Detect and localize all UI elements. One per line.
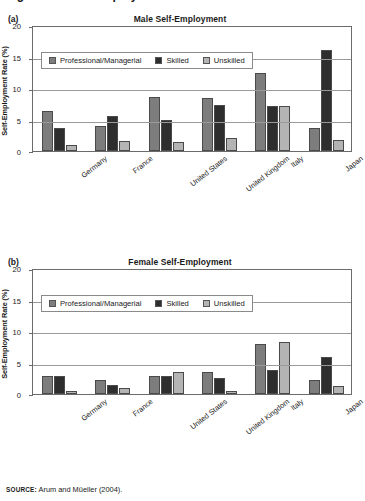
- y-axis-tick-mark: [29, 333, 33, 334]
- bar-group: [33, 270, 86, 394]
- legend-swatch-icon: [203, 57, 210, 64]
- gridline: [33, 333, 351, 334]
- bar: [279, 106, 290, 151]
- legend-swatch-icon: [49, 57, 56, 64]
- bar-group: [140, 27, 193, 151]
- x-axis-label: United States: [189, 154, 230, 188]
- bar: [107, 385, 118, 394]
- plot-area-female: 05101520Professional/ManagerialSkilledUn…: [32, 269, 352, 395]
- bar: [173, 372, 184, 394]
- bar: [333, 140, 344, 151]
- bar: [54, 128, 65, 151]
- x-axis-labels-female: GermanyFranceUnited StatesUnited Kingdom…: [32, 397, 352, 441]
- y-axis-tick-mark: [29, 59, 33, 60]
- bar: [214, 105, 225, 151]
- source-note: SOURCE: Arum and Müeller (2004).: [6, 485, 122, 494]
- bar: [95, 126, 106, 151]
- bar-group: [86, 270, 139, 394]
- legend-item: Unskilled: [203, 299, 245, 308]
- y-axis-tick-mark: [29, 270, 33, 271]
- x-axis-label: Japan: [344, 397, 365, 416]
- bar: [309, 128, 320, 151]
- chart-legend: Professional/ManagerialSkilledUnskilled: [41, 52, 253, 69]
- y-axis-tick-mark: [29, 90, 33, 91]
- y-axis-tick-label: 10: [0, 328, 21, 337]
- bar: [173, 142, 184, 151]
- legend-label: Unskilled: [214, 299, 245, 308]
- bar: [226, 391, 237, 394]
- y-axis-tick-mark: [29, 122, 33, 123]
- y-axis-tick-mark: [29, 395, 33, 396]
- legend-label: Professional/Managerial: [60, 299, 141, 308]
- bar: [255, 73, 266, 151]
- bar: [54, 376, 65, 394]
- legend-item: Unskilled: [203, 56, 245, 65]
- y-axis-tick-label: 5: [0, 360, 21, 369]
- bar: [161, 376, 172, 394]
- bar-groups-female: [33, 270, 351, 394]
- plot-area-male: 05101520Professional/ManagerialSkilledUn…: [32, 26, 352, 152]
- x-axis-label: United Kingdom: [244, 397, 291, 436]
- y-axis-tick-label: 15: [0, 297, 21, 306]
- x-axis-label: Japan: [344, 154, 365, 173]
- bar: [95, 380, 106, 394]
- x-axis-label: Germany: [79, 397, 109, 423]
- y-axis-tick-mark: [29, 27, 33, 28]
- source-text: Arum and Müeller (2004).: [37, 485, 122, 494]
- bar: [66, 145, 77, 151]
- bar: [226, 138, 237, 151]
- legend-label: Professional/Managerial: [60, 56, 141, 65]
- x-axis-labels-male: GermanyFranceUnited StatesUnited Kingdom…: [32, 154, 352, 198]
- bar: [161, 120, 172, 152]
- bar: [333, 386, 344, 394]
- legend-label: Skilled: [166, 56, 188, 65]
- y-axis-tick-label: 0: [0, 148, 21, 157]
- chart-title-male: Male Self-Employment: [0, 14, 360, 24]
- x-axis-label: Germany: [79, 154, 109, 180]
- bar: [255, 344, 266, 394]
- chart-legend: Professional/ManagerialSkilledUnskilled: [41, 295, 253, 312]
- bar: [214, 378, 225, 394]
- y-axis-tick-label: 15: [0, 54, 21, 63]
- y-axis-tick-mark: [29, 365, 33, 366]
- bar-group: [193, 270, 246, 394]
- bar: [321, 357, 332, 394]
- y-axis-tick-label: 0: [0, 391, 21, 400]
- bar: [202, 98, 213, 151]
- bar: [279, 342, 290, 394]
- bar-group: [246, 27, 299, 151]
- bar: [267, 106, 278, 151]
- bar-group: [140, 270, 193, 394]
- bar-group: [33, 27, 86, 151]
- bar-group: [193, 27, 246, 151]
- bar-group: [246, 270, 299, 394]
- bar: [267, 370, 278, 394]
- y-axis-tick-mark: [29, 302, 33, 303]
- bar: [42, 111, 53, 151]
- legend-swatch-icon: [49, 300, 56, 307]
- bar: [321, 50, 332, 151]
- y-axis-tick-label: 10: [0, 85, 21, 94]
- x-axis-label: France: [131, 397, 155, 418]
- figure-caption: Figure 3.5 Self-Employment Across Countr…: [6, 0, 271, 2]
- x-axis-label: Italy: [289, 397, 305, 412]
- bar: [66, 391, 77, 394]
- gridline: [33, 90, 351, 91]
- bar: [119, 141, 130, 151]
- legend-item: Professional/Managerial: [49, 56, 141, 65]
- bar: [149, 376, 160, 394]
- y-axis-tick-label: 20: [0, 265, 21, 274]
- bar-group: [300, 27, 353, 151]
- x-axis-label: United States: [189, 397, 230, 431]
- legend-item: Professional/Managerial: [49, 299, 141, 308]
- x-axis-label: France: [131, 154, 155, 175]
- y-axis-tick-label: 20: [0, 22, 21, 31]
- legend-item: Skilled: [155, 56, 188, 65]
- legend-swatch-icon: [155, 57, 162, 64]
- bar: [149, 97, 160, 151]
- legend-swatch-icon: [203, 300, 210, 307]
- legend-label: Unskilled: [214, 56, 245, 65]
- bar: [309, 380, 320, 394]
- bar: [119, 388, 130, 394]
- chart-title-female: Female Self-Employment: [0, 257, 360, 267]
